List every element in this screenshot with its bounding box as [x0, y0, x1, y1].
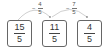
fraction-box-1: 15 5	[7, 20, 32, 47]
arrow-head-2	[86, 16, 88, 18]
numerator: 15	[14, 23, 24, 32]
denominator: 5	[17, 35, 22, 44]
op-numerator: 4	[38, 1, 41, 7]
numerator: 11	[50, 23, 59, 32]
numerator: 4	[87, 23, 92, 32]
operation-1: − 4 5	[32, 1, 43, 15]
op-numerator: 7	[72, 1, 75, 7]
operation-sign: −	[66, 5, 70, 11]
op-denominator: 5	[72, 9, 75, 15]
denominator: 5	[52, 35, 57, 44]
arrow-head-1	[49, 16, 51, 18]
fraction-box-3: 4 5	[77, 20, 102, 47]
denominator: 5	[87, 35, 92, 44]
operation-sign: −	[32, 5, 36, 11]
op-denominator: 5	[38, 9, 41, 15]
fraction-box-2: 11 5	[42, 20, 67, 47]
operation-fraction: 4 5	[38, 1, 43, 15]
operation-2: − 7 5	[66, 1, 77, 15]
operation-fraction: 7 5	[72, 1, 77, 15]
